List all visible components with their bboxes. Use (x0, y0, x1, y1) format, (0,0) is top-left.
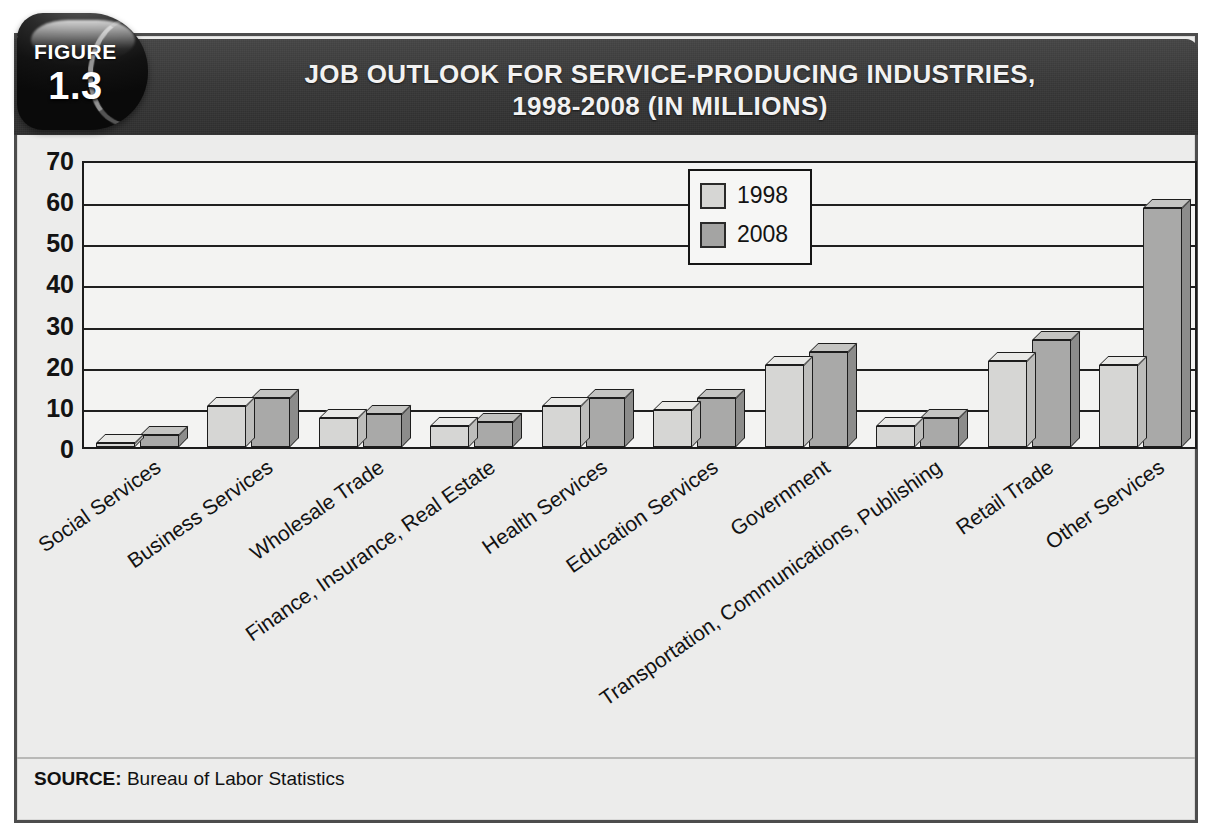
bar-front-face (920, 418, 959, 447)
figure-page: JOB OUTLOOK FOR SERVICE-PRODUCING INDUST… (0, 0, 1216, 834)
bar-1998 (653, 410, 692, 447)
legend-swatch-1998 (700, 183, 726, 209)
source-text: Bureau of Labor Statistics (122, 768, 345, 789)
bar-group (876, 163, 968, 447)
chart-legend: 1998 2008 (688, 169, 812, 265)
bar-side-face (848, 343, 857, 447)
bar-front-face (1099, 365, 1138, 447)
y-axis-tick-label: 60 (22, 188, 74, 217)
bar-2008 (1032, 340, 1071, 447)
y-axis-tick-label: 50 (22, 229, 74, 258)
bar-front-face (876, 426, 915, 447)
bar-1998 (96, 443, 135, 447)
bar-2008 (920, 418, 959, 447)
chart: 706050403020100 1998 2008 Social Service… (14, 140, 1198, 760)
bar-2008 (1143, 208, 1182, 447)
bar-group (430, 163, 522, 447)
bar-front-face (207, 406, 246, 447)
bar-front-face (251, 398, 290, 447)
bar-front-face (319, 418, 358, 447)
bar-front-face (542, 406, 581, 447)
bar-1998 (765, 365, 804, 447)
bar-front-face (697, 398, 736, 447)
bar-group (1099, 163, 1191, 447)
bar-front-face (1032, 340, 1071, 447)
bar-front-face (586, 398, 625, 447)
bar-group (207, 163, 299, 447)
bar-2008 (697, 398, 736, 447)
bar-front-face (653, 410, 692, 447)
source-divider (17, 757, 1195, 759)
legend-label-2008: 2008 (737, 221, 788, 248)
badge-label: FIGURE (17, 40, 134, 64)
bar-group (988, 163, 1080, 447)
figure-title-bar: JOB OUTLOOK FOR SERVICE-PRODUCING INDUST… (14, 39, 1198, 135)
bar-group (96, 163, 188, 447)
plot-area (82, 161, 1197, 449)
bar-1998 (876, 426, 915, 447)
bar-1998 (430, 426, 469, 447)
bar-1998 (207, 406, 246, 447)
bar-2008 (474, 422, 513, 447)
y-axis-tick-label: 30 (22, 311, 74, 340)
bar-front-face (988, 361, 1027, 447)
bar-front-face (809, 352, 848, 447)
bar-side-face (1182, 199, 1191, 447)
bar-group (542, 163, 634, 447)
bar-group (319, 163, 411, 447)
legend-entry-2008: 2008 (700, 221, 788, 248)
figure-title-line-2: 1998-2008 (IN MILLIONS) (210, 90, 1130, 122)
bar-front-face (765, 365, 804, 447)
legend-entry-1998: 1998 (700, 182, 788, 209)
x-axis-label: Government (726, 455, 834, 541)
bar-front-face (430, 426, 469, 447)
legend-label-1998: 1998 (737, 182, 788, 209)
bar-2008 (586, 398, 625, 447)
bar-2008 (809, 352, 848, 447)
bar-front-face (140, 435, 179, 447)
bar-1998 (319, 418, 358, 447)
bar-front-face (96, 443, 135, 447)
bar-2008 (251, 398, 290, 447)
source-label: SOURCE: (34, 768, 122, 789)
bar-side-face (1027, 351, 1036, 447)
figure-title: JOB OUTLOOK FOR SERVICE-PRODUCING INDUST… (210, 58, 1130, 122)
bar-1998 (542, 406, 581, 447)
y-axis-ticks: 706050403020100 (14, 161, 74, 449)
x-axis-label: Retail Trade (951, 455, 1058, 540)
bar-2008 (140, 435, 179, 447)
x-axis-labels: Social ServicesBusiness ServicesWholesal… (14, 449, 1198, 749)
bar-front-face (474, 422, 513, 447)
y-axis-tick-label: 40 (22, 270, 74, 299)
legend-swatch-2008 (700, 222, 726, 248)
y-axis-tick-label: 20 (22, 352, 74, 381)
bar-1998 (1099, 365, 1138, 447)
bar-side-face (1071, 331, 1080, 447)
bar-front-face (363, 414, 402, 447)
bar-2008 (363, 414, 402, 447)
bar-side-face (736, 388, 745, 447)
bar-series-container (84, 163, 1195, 447)
bar-side-face (290, 388, 299, 447)
bar-1998 (988, 361, 1027, 447)
bar-side-face (625, 388, 634, 447)
y-axis-tick-label: 10 (22, 393, 74, 422)
bar-side-face (804, 355, 813, 447)
badge-number: 1.3 (17, 65, 134, 108)
y-axis-tick-label: 70 (22, 147, 74, 176)
bar-side-face (1138, 355, 1147, 447)
bar-front-face (1143, 208, 1182, 447)
source-note: SOURCE: Bureau of Labor Statistics (34, 768, 344, 790)
figure-number-badge: FIGURE 1.3 (17, 13, 148, 130)
figure-title-line-1: JOB OUTLOOK FOR SERVICE-PRODUCING INDUST… (304, 59, 1035, 89)
x-axis-label: Other Services (1041, 455, 1169, 554)
